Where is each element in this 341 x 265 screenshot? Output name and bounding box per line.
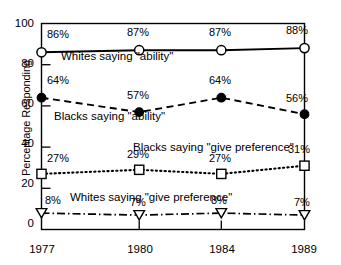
data-label: 8% [45,194,61,206]
series-annotation-whites-preference: Whites saying "give preference" [70,191,232,203]
data-label: 64% [209,74,231,86]
series-annotation-whites-ability: Whites saying "ability" [61,50,173,62]
data-point-marker [135,165,144,174]
data-point-marker [37,93,46,102]
series-annotation-blacks-ability: Blacks saying "ability" [54,110,165,122]
series-whites-preference [36,209,310,220]
data-point-marker [37,169,46,178]
data-point-marker [37,48,46,57]
data-point-marker [217,46,226,55]
data-point-marker [217,169,226,178]
data-point-marker [300,44,309,53]
data-label: 87% [127,26,149,38]
data-label: 88% [286,24,308,36]
data-label: 27% [209,152,231,164]
data-label: 87% [209,26,231,38]
line-chart: Percentage Responding 100 80 60 40 20 0 … [0,0,341,265]
data-point-marker [300,110,309,119]
data-label: 56% [286,92,308,104]
data-label: 57% [127,89,149,101]
data-label: 64% [47,74,69,86]
data-label: 27% [47,152,69,164]
data-label: 7% [294,196,310,208]
data-label: 86% [47,28,69,40]
x-axis-ticks [139,221,221,230]
series-blacks-preference [37,161,309,178]
series-annotation-blacks-preference: Blacks saying "give preference" [133,141,294,153]
data-point-marker [300,161,309,170]
data-point-marker [217,93,226,102]
